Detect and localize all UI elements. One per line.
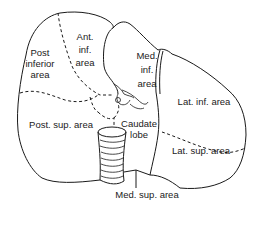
label-line: Ant.	[72, 30, 98, 43]
label-med-inf-area: Med. inf. area	[130, 49, 164, 91]
label-lat-inf-area: Lat. inf. area	[166, 96, 242, 107]
label-line: inf.	[130, 63, 164, 77]
label-post-inferior-area: Post inferior area	[18, 47, 62, 80]
label-ant-inf-area: Ant. inf. area	[72, 30, 98, 69]
label-line: area	[130, 77, 164, 91]
label-line: inf.	[72, 43, 98, 56]
med-sup-divider	[124, 170, 150, 175]
label-line: area	[72, 56, 98, 69]
post-inf-sup-divider	[20, 91, 98, 101]
label-line: Med.	[130, 49, 164, 63]
label-line: inferior	[18, 58, 62, 69]
med-inf-outline	[103, 28, 118, 94]
ivc-rings	[100, 140, 125, 178]
label-caudate-lobe: Caudate lobe	[118, 118, 160, 140]
label-line: Caudate	[118, 118, 160, 129]
label-med-sup-area: Med. sup. area	[110, 189, 184, 200]
central-divider	[98, 112, 114, 127]
label-line: Post	[18, 47, 62, 58]
label-line: area	[18, 69, 62, 80]
central-divider-2	[114, 104, 119, 118]
label-line: lobe	[118, 129, 160, 140]
label-post-sup-area: Post. sup. area	[26, 119, 96, 130]
med-inf-top	[113, 22, 158, 50]
label-lat-sup-area: Lat. sup. area	[168, 145, 234, 156]
left-lobe-top	[158, 49, 246, 135]
left-lobe-right	[150, 135, 246, 189]
